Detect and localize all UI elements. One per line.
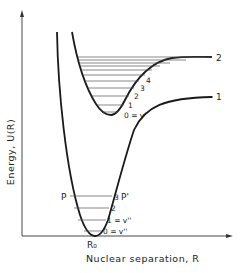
upper-level-label-0: 0 = v' [124, 111, 146, 120]
upper-level-label-4: 4 [146, 76, 151, 85]
x-axis-arrow-icon [226, 234, 233, 238]
curve-2-label: 2 [216, 53, 222, 63]
y-axis-label: Energy, U(R) [5, 119, 16, 185]
upper-vibrational-levels [78, 57, 212, 112]
turning-point-p: P [61, 192, 67, 202]
y-axis-arrow-icon [20, 10, 24, 17]
potential-energy-diagram: Energy, U(R) Nuclear separation, R R₀ 1 … [0, 0, 242, 273]
turning-point-p-prime: P' [121, 192, 129, 202]
lower-level-label-3: 3 [114, 193, 119, 202]
x-axis [22, 234, 233, 238]
curve-1 [57, 32, 212, 236]
upper-level-label-1: 1 [128, 101, 133, 110]
y-axis [20, 10, 24, 236]
upper-level-label-2: 2 [134, 92, 139, 101]
lower-level-label-2: 2 [111, 204, 116, 213]
curve-2 [72, 32, 212, 115]
lower-level-label-1: 1 = v'' [107, 216, 131, 225]
curve-1-label: 1 [216, 92, 222, 102]
x-axis-label: Nuclear separation, R [86, 253, 199, 264]
upper-level-label-3: 3 [140, 84, 145, 93]
equilibrium-label: R₀ [87, 240, 97, 250]
lower-level-label-0: 0 = v'' [103, 227, 127, 236]
